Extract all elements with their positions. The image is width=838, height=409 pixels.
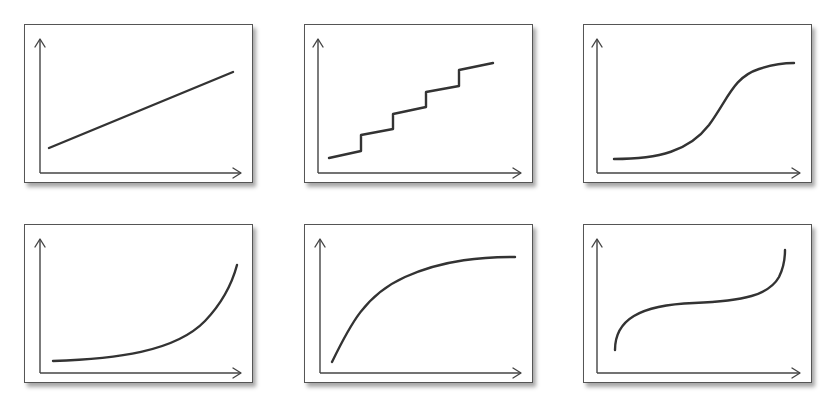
saturating-growth-chart <box>305 225 534 384</box>
exponential-curve <box>53 265 237 361</box>
panel-step <box>304 24 533 183</box>
panel-linear <box>24 24 253 183</box>
panel-inverse-s <box>583 224 812 383</box>
inverse-s-curve <box>615 250 785 350</box>
cubic-plateau-chart <box>584 225 813 384</box>
exponential-growth-chart <box>25 225 254 384</box>
linear-growth-chart <box>25 25 254 184</box>
step-growth-chart <box>305 25 534 184</box>
panel-exponential <box>24 224 253 383</box>
s-curve <box>614 63 794 159</box>
step-curve <box>329 63 493 158</box>
linear-curve <box>49 72 233 148</box>
panel-saturating <box>304 224 533 383</box>
sigmoid-growth-chart <box>584 25 813 184</box>
saturating-curve <box>332 257 515 362</box>
panel-s-curve <box>583 24 812 183</box>
